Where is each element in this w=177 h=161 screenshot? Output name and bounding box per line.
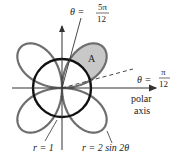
ray-5pi12-den: 12	[97, 14, 106, 24]
circle-equation-label: r = 1	[33, 142, 54, 153]
ray-pi12-lhs: θ =	[137, 74, 151, 85]
axis-label-axis: axis	[134, 105, 150, 116]
ray-5pi12-lhs: θ =	[70, 6, 84, 17]
ray-pi12-num: π	[161, 67, 166, 77]
polar-diagram: A θ = 5π 12 θ = π 12 polar axis r = 1 r …	[0, 0, 177, 161]
rose-equation-label: r = 2 sin 2θ	[82, 142, 129, 153]
axis-label-polar: polar	[131, 93, 152, 104]
leader-circle	[45, 120, 57, 141]
region-label: A	[88, 53, 96, 64]
diagram-canvas: A θ = 5π 12 θ = π 12 polar axis r = 1 r …	[0, 0, 177, 161]
ray-pi12-den: 12	[159, 79, 168, 89]
ray-5pi12-num: 5π	[98, 2, 108, 12]
